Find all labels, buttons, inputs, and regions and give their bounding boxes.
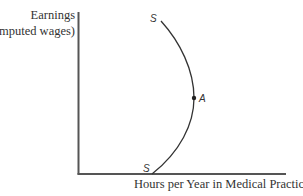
x-axis-label: Hours per Year in Medical Practice: [134, 177, 303, 192]
supply-label-bottom: S: [143, 163, 150, 174]
supply-curve-chart: S A S: [0, 0, 303, 196]
supply-curve: [152, 21, 194, 174]
point-a-marker: [192, 96, 196, 100]
point-a-label: A: [198, 93, 206, 104]
supply-label-top: S: [150, 13, 157, 24]
